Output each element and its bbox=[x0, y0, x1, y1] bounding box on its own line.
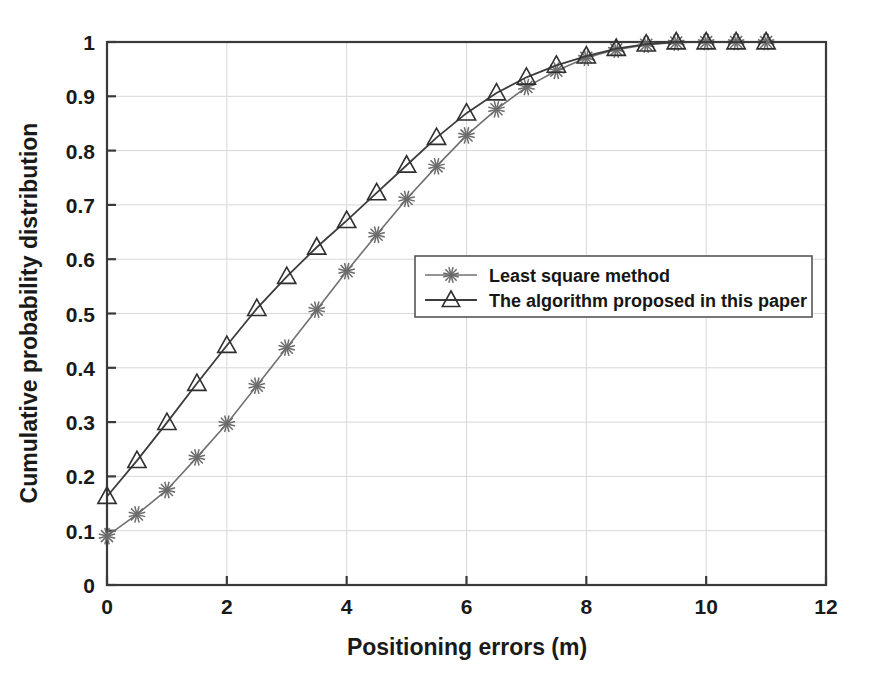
legend-label: The algorithm proposed in this paper bbox=[489, 291, 807, 311]
chart-legend[interactable]: Least square methodThe algorithm propose… bbox=[415, 256, 812, 317]
x-tick-label: 6 bbox=[461, 595, 473, 618]
chart-figure: 024681012 00.10.20.30.40.50.60.70.80.91 … bbox=[0, 0, 870, 686]
y-axis-title: Cumulative probability distribution bbox=[16, 123, 42, 504]
y-tick-label: 0.2 bbox=[66, 465, 95, 488]
y-tick-label: 0.9 bbox=[66, 85, 95, 108]
y-tick-label: 0.5 bbox=[66, 303, 96, 326]
figure-background bbox=[0, 0, 870, 686]
y-tick-label: 0.4 bbox=[66, 357, 96, 380]
legend-label: Least square method bbox=[489, 266, 670, 286]
x-tick-label: 4 bbox=[341, 595, 353, 618]
y-tick-label: 0.6 bbox=[66, 248, 95, 271]
y-tick-label: 0.7 bbox=[66, 194, 95, 217]
x-axis-title: Positioning errors (m) bbox=[347, 634, 587, 660]
y-tick-label: 0.3 bbox=[66, 411, 95, 434]
x-tick-label: 12 bbox=[814, 595, 837, 618]
y-tick-label: 0 bbox=[83, 574, 95, 597]
x-tick-label: 0 bbox=[101, 595, 113, 618]
y-tick-label: 0.1 bbox=[66, 520, 96, 543]
x-tick-label: 10 bbox=[694, 595, 717, 618]
x-tick-label: 2 bbox=[221, 595, 233, 618]
y-tick-label: 0.8 bbox=[66, 140, 96, 163]
x-tick-label: 8 bbox=[580, 595, 592, 618]
y-tick-label: 1 bbox=[83, 31, 95, 54]
cumulative-probability-plot: 024681012 00.10.20.30.40.50.60.70.80.91 … bbox=[0, 0, 870, 686]
